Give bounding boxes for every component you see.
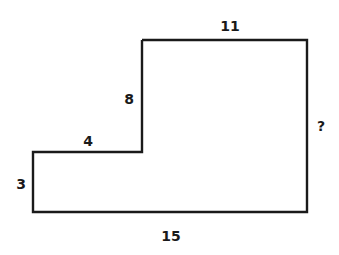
l-shape-diagram <box>0 0 339 255</box>
shape-outline <box>33 40 307 212</box>
label-left-side: 3 <box>16 177 26 191</box>
label-top-side: 11 <box>220 19 239 33</box>
label-upper-left-side: 8 <box>124 92 134 106</box>
label-bottom-side: 15 <box>161 229 180 243</box>
label-right-side-unknown: ? <box>317 119 325 133</box>
label-step-side: 4 <box>83 134 93 148</box>
